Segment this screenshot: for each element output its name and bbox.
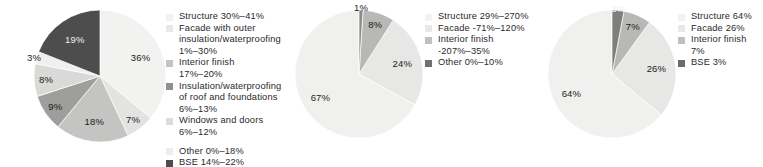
legend-label: BSE 3% xyxy=(691,57,763,69)
pie-svg xyxy=(546,8,678,140)
legend-swatch-icon xyxy=(678,14,685,21)
pie-left: 36%7%18%9%8%3%19% xyxy=(32,8,168,144)
legend-item: Facade 26% xyxy=(678,23,763,35)
legend-item: Structure 64% xyxy=(678,11,763,23)
legend-item: Interior finish7% xyxy=(678,34,763,57)
legend-swatch-icon xyxy=(425,60,432,67)
legend-label: Interior finish xyxy=(691,34,763,46)
legend-swatch-icon xyxy=(425,25,432,32)
pie-right: 64%26%7%3% xyxy=(546,8,678,140)
legend-swatch-icon xyxy=(678,37,685,44)
legend-swatch-icon xyxy=(166,160,173,167)
legend-swatch-icon xyxy=(166,118,173,125)
legend-swatch-icon xyxy=(678,60,685,67)
legend-swatch-icon xyxy=(166,83,173,90)
chart-left: 36%7%18%9%8%3%19% Structure 30%–41%Facad… xyxy=(0,0,255,167)
legend-swatch-icon xyxy=(678,25,685,32)
pie-chart-figure: 36%7%18%9%8%3%19% Structure 30%–41%Facad… xyxy=(0,0,763,167)
legend-label: 7% xyxy=(691,46,763,58)
legend-swatch-icon xyxy=(166,148,173,155)
legend-swatch-icon xyxy=(425,37,432,44)
legend-label: Facade 26% xyxy=(691,23,763,35)
pie-svg xyxy=(293,8,425,140)
legend-swatch-icon xyxy=(166,60,173,67)
legend-item: BSE 3% xyxy=(678,57,763,69)
legend-right: Structure 64%Facade 26%Interior finish7%… xyxy=(678,11,763,69)
legend-swatch-icon xyxy=(166,14,173,21)
pie-middle: 67%24%8%1% xyxy=(293,8,425,140)
legend-swatch-icon xyxy=(166,25,173,32)
pie-svg xyxy=(32,8,168,144)
legend-swatch-icon xyxy=(425,14,432,21)
legend-label: Structure 64% xyxy=(691,11,763,23)
chart-right: 64%26%7%3% Structure 64%Facade 26%Interi… xyxy=(510,0,763,167)
chart-middle: 67%24%8%1% Structure 29%–270%Facade -71%… xyxy=(255,0,510,167)
